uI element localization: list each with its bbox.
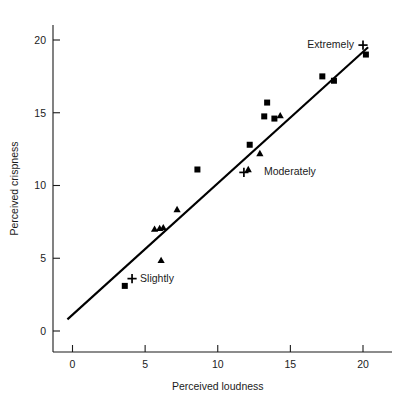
x-tick-label: 5 bbox=[142, 358, 148, 370]
data-point-plus bbox=[127, 274, 136, 283]
data-point-triangle bbox=[158, 257, 165, 263]
data-point-square bbox=[271, 116, 277, 122]
x-tick-label: 15 bbox=[285, 358, 297, 370]
x-tick-label: 10 bbox=[212, 358, 224, 370]
regression-line bbox=[67, 47, 368, 319]
y-axis-title: Perceived crispness bbox=[8, 142, 20, 236]
x-tick-label: 0 bbox=[70, 358, 76, 370]
data-point-square bbox=[247, 142, 253, 148]
data-point-square bbox=[319, 73, 325, 79]
y-tick-label: 15 bbox=[34, 107, 46, 119]
regression-line-segment bbox=[67, 47, 368, 319]
x-axis-ticks: 05101520 bbox=[70, 345, 369, 370]
annotation-label: Slightly bbox=[140, 272, 175, 284]
y-axis-ticks: 05101520 bbox=[34, 34, 60, 337]
axes bbox=[53, 25, 392, 352]
data-point-square bbox=[264, 100, 270, 106]
chart-canvas: 05101520 05101520 SlightlyModeratelyExtr… bbox=[0, 0, 407, 405]
data-point-square bbox=[194, 166, 200, 172]
data-point-triangle bbox=[256, 150, 263, 156]
y-tick-label: 10 bbox=[34, 179, 46, 191]
y-tick-label: 5 bbox=[40, 252, 46, 264]
y-tick-label: 20 bbox=[34, 34, 46, 46]
annotation-label: Extremely bbox=[307, 38, 354, 50]
x-tick-label: 20 bbox=[357, 358, 369, 370]
annotation-label: Moderately bbox=[264, 165, 317, 177]
data-points bbox=[122, 40, 369, 288]
data-point-square bbox=[331, 78, 337, 84]
data-point-square bbox=[363, 52, 369, 58]
y-tick-label: 0 bbox=[40, 325, 46, 337]
x-axis-title: Perceived loudness bbox=[172, 380, 264, 392]
data-point-square bbox=[122, 283, 128, 289]
data-point-square bbox=[261, 113, 267, 119]
data-point-triangle bbox=[277, 112, 284, 118]
data-point-triangle bbox=[245, 166, 252, 172]
data-point-triangle bbox=[173, 206, 180, 212]
scatter-plot-figure: 05101520 05101520 SlightlyModeratelyExtr… bbox=[0, 0, 407, 405]
